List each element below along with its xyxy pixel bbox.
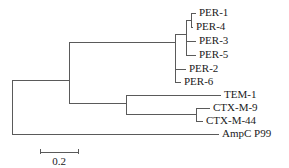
tree-branches: [0, 0, 289, 168]
taxon-label-per-2: PER-2: [189, 63, 218, 74]
taxon-label-ampc-p99: AmpC P99: [222, 128, 271, 139]
taxon-label-ctx-m-44: CTX-M-44: [206, 115, 256, 126]
taxon-label-per-5: PER-5: [199, 49, 228, 60]
taxon-label-ctx-m-9: CTX-M-9: [213, 102, 258, 113]
taxon-label-per-6: PER-6: [184, 76, 213, 87]
taxon-label-per-1: PER-1: [199, 7, 228, 18]
taxon-label-per-3: PER-3: [199, 35, 228, 46]
scale-bar-label: 0.2: [40, 155, 78, 167]
taxon-label-per-4: PER-4: [196, 21, 225, 32]
taxon-label-tem-1: TEM-1: [224, 89, 256, 100]
scale-bar-group: [40, 149, 78, 154]
phylogenetic-tree-figure: PER-1PER-4PER-3PER-5PER-2PER-6TEM-1CTX-M…: [0, 0, 289, 168]
